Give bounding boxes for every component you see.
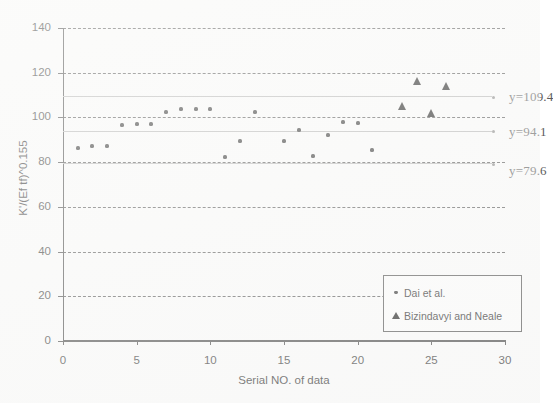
data-point [194, 107, 198, 111]
data-point [282, 139, 286, 143]
data-point [223, 155, 227, 159]
data-point [164, 110, 168, 114]
gridline-y-100 [63, 117, 505, 118]
y-tick-label-140: 140 [32, 21, 51, 33]
legend-entry-bizindavyi: Bizindavyi and Neale [390, 304, 515, 327]
y-tick-label-0: 0 [45, 334, 51, 346]
chart-legend: Dai et al. Bizindavyi and Neale [383, 275, 522, 332]
reference-label-lower: y=79.6 [509, 163, 547, 179]
diamond-marker-icon [390, 291, 402, 295]
data-point [105, 144, 109, 148]
reference-label-upper: y=109.4 [509, 89, 553, 105]
y-axis-title: K'/(Ef tf)^0.155 [17, 78, 29, 278]
data-point [253, 110, 257, 114]
data-point [208, 107, 212, 111]
gridline-y-40 [63, 252, 505, 253]
x-tick-15: 15 [284, 340, 285, 345]
y-tick-label-60: 60 [38, 200, 51, 212]
legend-label-dai: Dai et al. [404, 287, 445, 299]
y-tick-label-40: 40 [38, 245, 51, 257]
data-point [398, 102, 406, 110]
x-tick-10: 10 [210, 340, 211, 345]
gridline-y-140 [63, 28, 505, 29]
reference-line-109.4 [63, 96, 492, 97]
y-tick-140: 140 [58, 28, 64, 29]
y-axis-line [63, 28, 64, 341]
x-tick-20: 20 [358, 340, 359, 345]
gridline-y-120 [63, 73, 505, 74]
y-tick-120: 120 [58, 73, 64, 74]
x-tick-label-20: 20 [351, 354, 364, 366]
data-point [311, 154, 315, 158]
data-point [341, 120, 345, 124]
reference-line-79.6 [63, 163, 492, 164]
y-tick-label-100: 100 [32, 110, 51, 122]
y-tick-label-20: 20 [38, 289, 51, 301]
data-point [413, 77, 421, 85]
reference-label-middle: y=94.1 [509, 124, 547, 140]
data-point [149, 122, 153, 126]
x-tick-0: 0 [63, 340, 64, 345]
data-point [179, 107, 183, 111]
data-point [90, 144, 94, 148]
x-axis-title: Serial NO. of data [63, 374, 505, 386]
x-tick-30: 30 [505, 340, 506, 345]
data-point [356, 121, 360, 125]
data-point [238, 139, 242, 143]
x-tick-label-25: 25 [425, 354, 438, 366]
y-tick-40: 40 [58, 252, 64, 253]
x-tick-label-0: 0 [60, 354, 66, 366]
x-tick-25: 25 [431, 340, 432, 345]
data-point [297, 128, 301, 132]
data-point [76, 146, 80, 150]
x-tick-label-30: 30 [499, 354, 512, 366]
y-tick-label-120: 120 [32, 66, 51, 78]
data-point [442, 82, 450, 90]
data-point [370, 148, 374, 152]
y-tick-label-80: 80 [38, 155, 51, 167]
gridline-y-60 [63, 207, 505, 208]
x-tick-label-15: 15 [278, 354, 291, 366]
y-tick-20: 20 [58, 296, 64, 297]
x-tick-5: 5 [137, 340, 138, 345]
legend-entry-dai: Dai et al. [390, 281, 515, 304]
legend-label-bizindavyi: Bizindavyi and Neale [404, 310, 502, 322]
triangle-marker-icon [390, 312, 402, 319]
data-point [120, 123, 124, 127]
data-point [135, 122, 139, 126]
data-point [427, 109, 435, 117]
y-tick-80: 80 [58, 162, 64, 163]
y-tick-60: 60 [58, 207, 64, 208]
x-tick-label-5: 5 [133, 354, 139, 366]
data-point [326, 133, 330, 137]
reference-line-94.1 [63, 131, 492, 132]
x-tick-label-10: 10 [204, 354, 217, 366]
y-tick-100: 100 [58, 117, 64, 118]
